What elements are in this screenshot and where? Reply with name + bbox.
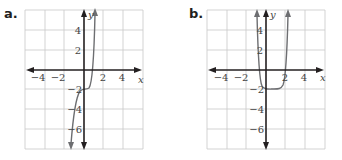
- svg-text:−4: −4: [249, 104, 264, 115]
- svg-text:−6: −6: [67, 124, 82, 135]
- x-axis-label: x: [320, 72, 326, 83]
- y-axis-label: y: [87, 9, 94, 20]
- svg-text:4: 4: [301, 72, 307, 83]
- svg-text:−2: −2: [67, 84, 82, 95]
- svg-text:−4: −4: [214, 72, 229, 83]
- graph-a-plot: −4 −2 2 4 x y 4 2 −2 −4 −6: [0, 0, 171, 160]
- x-axis-label: x: [138, 74, 144, 85]
- svg-text:2: 2: [282, 72, 288, 83]
- y-axis-label: y: [269, 9, 276, 20]
- svg-text:−4: −4: [67, 104, 82, 115]
- svg-text:−2: −2: [234, 72, 249, 83]
- svg-text:−4: −4: [31, 72, 46, 83]
- svg-text:4: 4: [119, 72, 125, 83]
- graph-b-plot: −4 −2 2 4 x y 4 2 −2 −4 −6: [171, 0, 342, 160]
- svg-text:2: 2: [100, 72, 106, 83]
- svg-text:4: 4: [75, 25, 81, 36]
- svg-text:−6: −6: [249, 124, 264, 135]
- svg-text:−2: −2: [51, 72, 66, 83]
- svg-text:4: 4: [257, 25, 263, 36]
- graph-b: b. −4 −2 2 4 x y 4 2 −2: [171, 0, 342, 160]
- svg-text:−2: −2: [249, 84, 264, 95]
- svg-text:2: 2: [75, 45, 81, 56]
- x-axis-right-arrow: [134, 67, 142, 73]
- svg-text:2: 2: [257, 45, 263, 56]
- graph-a: a. −4 −2 2 4 x y 4 2 −2: [0, 0, 171, 160]
